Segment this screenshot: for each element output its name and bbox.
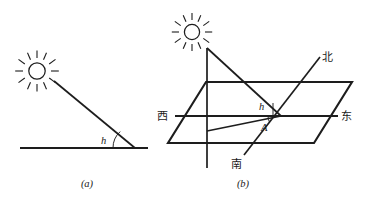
- sun-rays: [172, 13, 212, 51]
- panel-b-group: h A 西 东 北 南 (b): [157, 13, 352, 190]
- figure-root: h (a): [0, 0, 366, 204]
- azimuth-angle-label: A: [260, 122, 268, 133]
- direction-label-north: 北: [322, 51, 333, 64]
- north-south-axis-line: [244, 57, 320, 155]
- azimuth-shadow-line: [207, 116, 281, 131]
- panel-caption-a: (a): [81, 178, 94, 190]
- sun-icon: [172, 13, 212, 51]
- altitude-angle-label-b: h: [259, 101, 264, 112]
- direction-label-west: 西: [157, 110, 168, 123]
- direction-label-south: 南: [231, 158, 242, 171]
- sun-disc: [29, 63, 45, 79]
- direction-label-east: 东: [341, 110, 352, 123]
- sun-ray-line-a: [54, 81, 135, 148]
- altitude-angle-label-a: h: [101, 135, 106, 146]
- diagram-canvas: h (a): [0, 0, 366, 204]
- sun-icon: [15, 51, 59, 92]
- panel-a-group: h (a): [15, 51, 148, 191]
- sun-disc: [184, 24, 199, 39]
- panel-caption-b: (b): [237, 178, 250, 190]
- sun-rays: [15, 51, 59, 92]
